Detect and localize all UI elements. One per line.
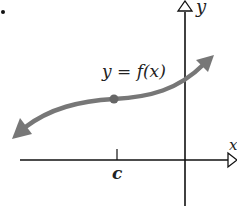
x-axis-arrow-icon xyxy=(228,153,237,167)
y-axis-label: y xyxy=(195,0,207,17)
curve-label: y = f(x) xyxy=(101,61,166,81)
figure-marker-dot xyxy=(1,10,5,14)
function-graph: y = f(x) y x c xyxy=(0,0,237,208)
y-axis-arrow-icon xyxy=(178,1,192,11)
tick-label-c: c xyxy=(112,163,123,183)
point-at-c xyxy=(110,95,119,104)
x-axis-label: x xyxy=(229,136,237,154)
curve-left-arrow-icon xyxy=(12,118,32,139)
